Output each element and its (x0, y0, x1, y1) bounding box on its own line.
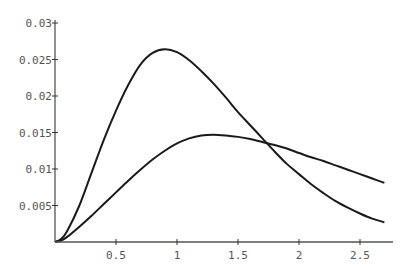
series-line-curve-2 (55, 135, 384, 242)
y-tick-label: 0.015 (19, 127, 52, 140)
y-tick-label: 0.02 (26, 90, 53, 103)
x-tick-label: 2 (296, 249, 303, 262)
plot-area (55, 49, 384, 242)
x-tick-label: 1.5 (228, 249, 248, 262)
x-tick-label: 0.5 (106, 249, 126, 262)
x-tick-label: 2.5 (350, 249, 370, 262)
y-tick-label: 0.005 (19, 200, 52, 213)
y-tick-label: 0.01 (26, 163, 53, 176)
y-axis-ticks: 0.0050.010.0150.020.0250.03 (19, 17, 58, 213)
line-chart: 0.511.522.5 0.0050.010.0150.020.0250.03 (0, 0, 412, 265)
series-line-curve-1 (55, 49, 384, 242)
y-tick-label: 0.025 (19, 54, 52, 67)
y-tick-label: 0.03 (26, 17, 53, 30)
x-tick-label: 1 (174, 249, 181, 262)
